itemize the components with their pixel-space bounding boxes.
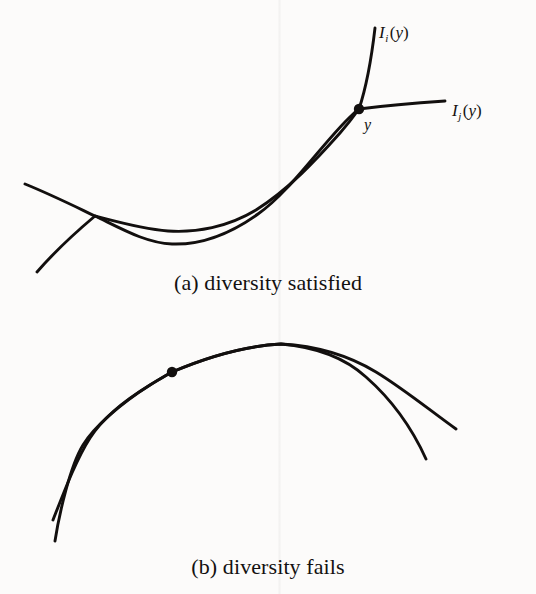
point-marker-y-panel-b (167, 367, 177, 377)
point-label-y-panel-a: y (364, 117, 371, 133)
panel-a-diversity-satisfied: Ii(y) Ij(y) y (0, 0, 536, 300)
curve-i-i-panel-b (53, 344, 456, 520)
curve-i-j-panel-b (55, 344, 426, 541)
curve-label-i-i-panel-a: Ii(y) (379, 24, 409, 44)
curve-i-i-panel-a (37, 28, 375, 272)
curve-label-symbol: I (379, 23, 385, 42)
curve-label-symbol: I (452, 101, 458, 120)
caption-panel-a: (a) diversity satisfied (0, 272, 536, 294)
figure-container: Ii(y) Ij(y) y (a) diversity satisfied Ii… (0, 0, 536, 594)
curve-label-argument: y (396, 23, 404, 42)
point-marker-y-panel-a (354, 104, 364, 114)
caption-panel-b: (b) diversity fails (0, 556, 536, 578)
curve-label-argument: y (469, 101, 477, 120)
panel-b-diversity-fails: Ii(y) Ij(y) y (0, 300, 536, 594)
curve-label-i-j-panel-a: Ij(y) (452, 102, 482, 122)
